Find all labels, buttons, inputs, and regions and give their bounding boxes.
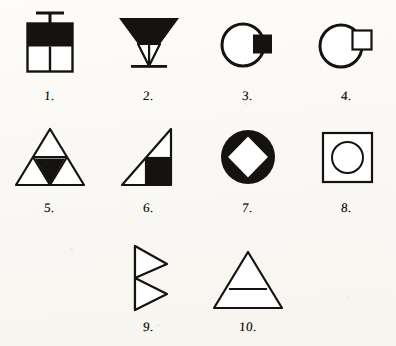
double-right-triangles-stacked-icon	[119, 238, 179, 314]
triangle-with-horizontal-band-icon	[208, 238, 288, 314]
triangle-quartered-black-center-icon	[12, 122, 88, 192]
figure-3[interactable]: 3.	[198, 4, 297, 102]
figure-8-caption: 8.	[341, 201, 353, 214]
figure-5[interactable]: 5.	[0, 122, 99, 214]
figure-9[interactable]: 9.	[99, 238, 198, 333]
figure-4[interactable]: 4.	[297, 4, 396, 102]
figure-8[interactable]: 8.	[297, 122, 396, 214]
figure-2-caption: 2.	[143, 89, 155, 102]
figure-7[interactable]: 7.	[198, 122, 297, 214]
figure-6[interactable]: 6.	[99, 122, 198, 214]
figure-3-caption: 3.	[242, 89, 254, 102]
figure-4-caption: 4.	[341, 89, 353, 102]
figure-8-art	[314, 122, 380, 192]
figure-4-art	[314, 4, 380, 82]
figure-1-art	[19, 4, 81, 82]
figure-2-art	[113, 4, 185, 82]
figure-10-caption: 10.	[238, 320, 257, 333]
figure-10-art	[208, 238, 288, 314]
figure-9-art	[119, 238, 179, 314]
square-with-inscribed-circle-icon	[314, 122, 380, 192]
figure-6-caption: 6.	[143, 201, 155, 214]
figure-row-3: 9. 10.	[0, 238, 396, 333]
black-disc-white-diamond-icon	[215, 122, 281, 192]
split-square-with-t-mast-icon	[19, 4, 81, 82]
figure-sheet: 1. 2.	[0, 0, 396, 346]
figure-5-art	[12, 122, 88, 192]
figure-9-caption: 9.	[143, 320, 155, 333]
figure-10[interactable]: 10.	[198, 238, 297, 333]
figure-7-caption: 7.	[242, 201, 254, 214]
figure-row-1: 1. 2.	[0, 4, 396, 102]
circle-with-white-square-icon	[314, 4, 380, 82]
figure-row-2: 5. 6.	[0, 122, 396, 214]
figure-3-art	[215, 4, 281, 82]
figure-2[interactable]: 2.	[99, 4, 198, 102]
figure-1-caption: 1.	[44, 89, 56, 102]
figure-7-art	[215, 122, 281, 192]
figure-5-caption: 5.	[44, 201, 56, 214]
right-triangle-black-quadrant-icon	[116, 122, 182, 192]
figure-1[interactable]: 1.	[0, 4, 99, 102]
circle-with-black-square-icon	[215, 4, 281, 82]
funnel-inverted-triangle-icon	[113, 4, 185, 82]
figure-6-art	[116, 122, 182, 192]
